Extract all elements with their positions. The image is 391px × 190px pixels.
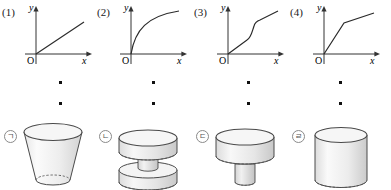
y-axis-label: y — [123, 2, 129, 13]
graph-label-2: (2) — [97, 6, 110, 18]
graph-label-1: (1) — [2, 6, 15, 18]
y-axis-arrow — [321, 6, 326, 12]
x-axis-label: x — [369, 55, 375, 66]
graph-row: (1) y x O (2) — [0, 0, 391, 72]
origin-label: O — [122, 55, 129, 66]
graph-plot-4: y x O — [310, 2, 384, 68]
graph-label-3: (3) — [194, 6, 207, 18]
vessel-cell-3: ㄷ — [192, 118, 288, 190]
graph-cell-4: (4) y x O — [288, 0, 384, 72]
vessel-shape-wide-over-narrow — [210, 118, 280, 190]
vessel-narrow-base — [235, 164, 255, 185]
vessel-tag-digeut: ㄷ — [196, 130, 209, 143]
x-axis-arrow — [181, 51, 187, 56]
vessel-tag-nieun: ㄴ — [99, 130, 112, 143]
graph-label-4: (4) — [290, 6, 303, 18]
vessel-top-rim — [119, 130, 177, 146]
graph-curve-1 — [36, 22, 84, 54]
separator-dot — [247, 81, 250, 84]
vessel-top-rim — [24, 124, 82, 141]
y-axis-label: y — [316, 2, 322, 13]
origin-label: O — [315, 55, 322, 66]
x-axis-label: x — [273, 55, 279, 66]
graph-curve-2 — [131, 11, 179, 54]
y-axis-label: y — [28, 2, 34, 13]
vessel-cell-4: ㄹ — [288, 118, 384, 190]
graph-curve-4 — [324, 13, 374, 54]
vessel-cell-1: ㄱ — [0, 118, 96, 190]
vessel-shape-double-bulb — [113, 118, 183, 190]
origin-label: O — [219, 55, 226, 66]
graph-plot-1: y x O — [22, 2, 96, 68]
x-axis-arrow — [374, 51, 380, 56]
graph-plot-3: y x O — [214, 2, 288, 68]
x-axis-label: x — [176, 55, 182, 66]
x-axis-arrow — [86, 51, 92, 56]
x-axis-label: x — [81, 55, 87, 66]
graph-cell-1: (1) y x O — [0, 0, 96, 72]
y-axis-arrow — [128, 6, 133, 12]
vessel-row: ㄱ ㄴ — [0, 118, 391, 190]
vessel-tag-rieul: ㄹ — [292, 130, 305, 143]
separator-dot — [152, 102, 155, 105]
vessel-tag-giyeok: ㄱ — [4, 130, 17, 143]
vessel-top-rim — [315, 128, 367, 143]
separator-dot — [339, 81, 342, 84]
vessel-top-rim — [216, 129, 274, 145]
y-axis-arrow — [225, 6, 230, 12]
separator-dot — [339, 102, 342, 105]
graph-curve-3 — [228, 11, 278, 54]
vessel-shape-inverted-cone — [18, 118, 88, 190]
vessel-cell-2: ㄴ — [95, 118, 191, 190]
worksheet-figure: (1) y x O (2) — [0, 0, 391, 190]
graph-cell-3: (3) y x O — [192, 0, 288, 72]
vessel-shape-cylinder — [306, 118, 376, 190]
graph-cell-2: (2) y x O — [95, 0, 191, 72]
separator-dot — [247, 102, 250, 105]
x-axis-arrow — [278, 51, 284, 56]
separator-dot — [152, 81, 155, 84]
y-axis-arrow — [33, 6, 38, 12]
origin-label: O — [27, 55, 34, 66]
separator-dot — [59, 81, 62, 84]
separator-dot — [59, 102, 62, 105]
graph-plot-2: y x O — [117, 2, 191, 68]
y-axis-label: y — [220, 2, 226, 13]
